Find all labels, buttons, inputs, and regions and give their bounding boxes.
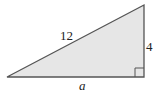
right-triangle-diagram: 12 4 a xyxy=(0,0,154,97)
horizontal-leg-label: a xyxy=(79,78,86,93)
triangle-shape xyxy=(7,5,144,77)
hypotenuse-label: 12 xyxy=(60,28,73,43)
vertical-leg-label: 4 xyxy=(146,39,153,54)
